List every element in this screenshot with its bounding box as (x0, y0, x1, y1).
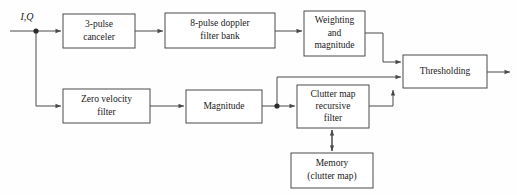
block-magnitude-label: Magnitude (203, 101, 244, 111)
block-weighting-magnitude-line1: Weighting (315, 15, 355, 25)
block-weighting-magnitude-line2: and (328, 28, 342, 38)
input-label-iq: I,Q (19, 11, 34, 22)
block-weighting-magnitude-line3: magnitude (314, 40, 354, 50)
block-diagram-canvas: I,Q 3-pulse canceler 8-pulse doppler fil… (0, 0, 517, 195)
block-thresholding-label: Thresholding (420, 66, 471, 76)
block-pulse-canceler-line2: canceler (83, 32, 115, 42)
block-doppler-filter-bank-line2: filter bank (200, 31, 240, 41)
block-clutter-filter-line2: recursive (316, 101, 351, 111)
radar-signal-processing-diagram: I,Q 3-pulse canceler 8-pulse doppler fil… (0, 0, 517, 195)
block-doppler-filter-bank-line1: 8-pulse doppler (190, 18, 250, 28)
block-clutter-filter-line3: filter (324, 113, 343, 123)
wire-weighting-to-thresholding (365, 33, 401, 62)
junction-dot-input (33, 28, 38, 33)
wire-junction-to-zero-velocity-filter (36, 31, 61, 106)
block-zero-velocity-filter-line2: filter (97, 107, 116, 117)
block-zero-velocity-filter-line1: Zero velocity (81, 94, 132, 104)
wire-clutter-filter-to-thresholding (369, 90, 393, 106)
block-memory-line1: Memory (316, 158, 349, 168)
junction-dot-magnitude (274, 103, 279, 108)
block-memory-line2: (clutter map) (307, 171, 356, 182)
block-pulse-canceler-line1: 3-pulse (85, 19, 113, 29)
block-clutter-filter-line1: Clutter map (310, 89, 355, 99)
